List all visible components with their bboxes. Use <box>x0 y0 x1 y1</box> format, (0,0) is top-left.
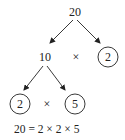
factorization-equation: 20 = 2 × 2 × 5 <box>14 123 80 135</box>
level2-right-prime: 5 <box>72 97 78 111</box>
level1-left-number: 10 <box>39 50 51 64</box>
level1-right-prime: 2 <box>105 50 111 64</box>
root-number: 20 <box>69 5 81 19</box>
arrow-root-right <box>77 20 100 43</box>
arrow-10-right <box>47 66 65 90</box>
level1-times-sign: × <box>73 50 80 64</box>
factor-tree-diagram: 20 10 × 2 2 × 5 20 = 2 × 2 × 5 <box>0 0 125 140</box>
arrow-root-left <box>50 20 73 43</box>
level2-times-sign: × <box>44 97 51 111</box>
arrow-10-left <box>24 66 43 90</box>
level2-left-prime: 2 <box>17 97 23 111</box>
